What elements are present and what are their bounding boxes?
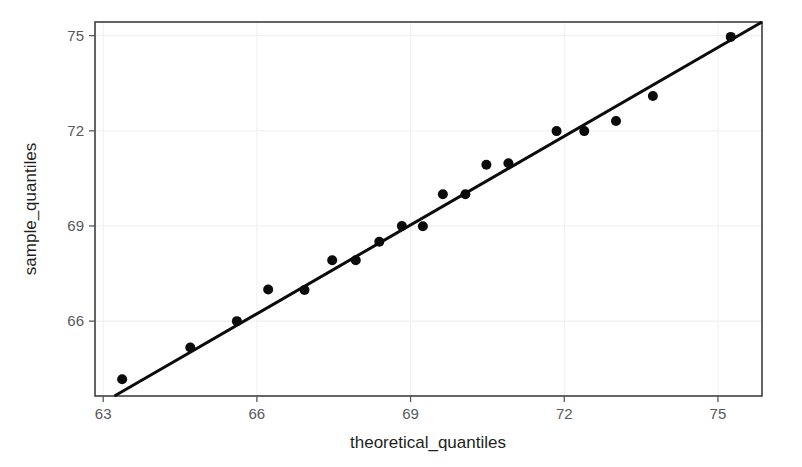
- x-tick-label: 63: [95, 405, 112, 422]
- data-point: [327, 255, 337, 265]
- data-point: [351, 255, 361, 265]
- x-tick-label: 69: [402, 405, 419, 422]
- y-tick-label: 66: [67, 312, 84, 329]
- data-point: [374, 237, 384, 247]
- y-tick-label: 75: [67, 27, 84, 44]
- data-point: [418, 221, 428, 231]
- data-point: [552, 126, 562, 136]
- x-axis-title: theoretical_quantiles: [350, 433, 506, 452]
- data-point: [648, 91, 658, 101]
- qq-plot-figure: 6366697275 66697275 theoretical_quantile…: [0, 0, 802, 467]
- data-point: [300, 285, 310, 295]
- data-point: [611, 116, 621, 126]
- data-point: [481, 160, 491, 170]
- data-point: [185, 342, 195, 352]
- data-point: [263, 284, 273, 294]
- qq-plot-canvas: 6366697275 66697275 theoretical_quantile…: [0, 0, 802, 467]
- data-point: [397, 221, 407, 231]
- data-point: [503, 158, 513, 168]
- data-point: [460, 189, 470, 199]
- data-point: [438, 189, 448, 199]
- x-tick-label: 66: [249, 405, 266, 422]
- x-tick-label: 72: [556, 405, 573, 422]
- data-point: [726, 32, 736, 42]
- y-tick-label: 69: [67, 217, 84, 234]
- x-tick-label: 75: [710, 405, 727, 422]
- y-tick-label: 72: [67, 122, 84, 139]
- data-point: [117, 374, 127, 384]
- y-axis-title: sample_quantiles: [21, 143, 40, 275]
- data-point: [232, 316, 242, 326]
- data-point: [579, 126, 589, 136]
